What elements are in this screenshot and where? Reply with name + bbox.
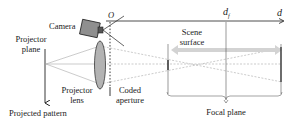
origin-label: O	[108, 11, 114, 20]
ray-lower-out	[100, 48, 282, 84]
projector-plane-label-line2: plane	[13, 45, 49, 54]
coded-aperture-label: Coded aperture	[110, 86, 150, 104]
projector-lens-label-line2: lens	[58, 96, 96, 105]
coded-aperture-label-line2: aperture	[110, 96, 150, 105]
focal-plane-bracket	[167, 92, 282, 100]
projector-camera-diagram: Camera O Projector plane Projector lens …	[0, 0, 291, 132]
focal-depth-subscript: f	[228, 13, 230, 19]
depth-axis-label: d	[277, 8, 282, 18]
scene-surface-arrow	[171, 45, 282, 55]
ray-lower	[46, 64, 100, 84]
scene-surface-label: Scene surface	[172, 28, 212, 46]
camera-icon	[80, 19, 103, 37]
ray-upper	[46, 46, 100, 64]
camera-fov-lower	[103, 30, 124, 46]
scene-surface-label-line1: Scene	[172, 28, 212, 37]
focal-plane-label: Focal plane	[196, 108, 256, 117]
camera-label: Camera	[49, 22, 75, 31]
projected-pattern-label: Projected pattern	[9, 109, 67, 118]
projector-plane-label: Projector plane	[13, 35, 49, 53]
scene-surface-label-line2: surface	[172, 38, 212, 47]
focal-plane-arrowhead	[224, 100, 228, 103]
focal-depth-label: df	[223, 7, 230, 19]
projector-lens-label: Projector lens	[58, 86, 96, 104]
projector-lens-shape	[95, 41, 106, 89]
coded-aperture-label-line1: Coded	[110, 86, 150, 95]
projector-lens-label-line1: Projector	[58, 86, 96, 95]
projector-plane-label-line1: Projector	[13, 35, 49, 44]
